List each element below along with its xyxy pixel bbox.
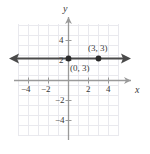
y-tick-label-pos2: 2 — [59, 56, 64, 65]
x-tick-label-pos2: 2 — [86, 85, 91, 94]
graph-canvas — [0, 0, 150, 154]
point-marker-3-3 — [96, 56, 102, 62]
y-tick-label-neg2: −2 — [55, 96, 65, 105]
x-axis-label: x — [135, 85, 139, 95]
point-marker-0-3 — [66, 56, 72, 62]
x-tick-label-neg2: −2 — [41, 85, 51, 94]
coordinate-plane-figure: y x −4 −2 2 4 4 2 −2 −4 (0, 3) (3, 3) — [0, 0, 150, 154]
y-tick-label-neg4: −4 — [55, 116, 65, 125]
x-tick-label-pos4: 4 — [106, 85, 111, 94]
point-label-0-3: (0, 3) — [70, 64, 90, 73]
point-label-3-3: (3, 3) — [88, 44, 108, 53]
x-axis — [14, 77, 131, 84]
y-axis-label: y — [63, 4, 67, 14]
x-tick-label-neg4: −4 — [21, 85, 31, 94]
y-tick-label-pos4: 4 — [59, 36, 64, 45]
